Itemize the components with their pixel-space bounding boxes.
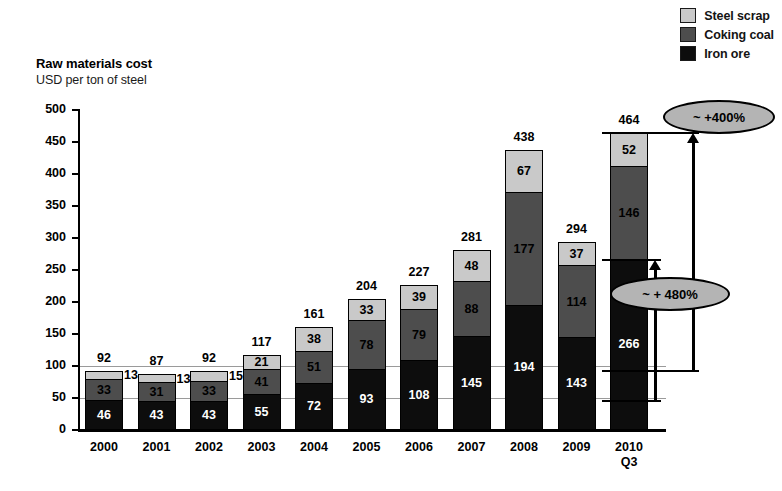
bar-total-label: 92 <box>85 351 123 365</box>
bar-segment-coking-coal[interactable]: 114 <box>559 266 595 338</box>
bar-segment-value: 146 <box>619 207 640 220</box>
x-axis-label: 2006 <box>392 440 446 455</box>
bar-segment-value: 43 <box>150 409 164 422</box>
stacked-bar[interactable]: 337893 <box>348 299 386 430</box>
bar-segment-coking-coal[interactable]: 51 <box>296 352 332 384</box>
y-axis-tick-label: 50 <box>52 390 66 404</box>
bar-segment-iron-ore[interactable]: 43 <box>191 402 227 429</box>
bar-segment-steel-scrap[interactable]: 38 <box>296 328 332 352</box>
bar-segment-value: 41 <box>255 376 269 389</box>
bar-segment-coking-coal[interactable]: 78 <box>349 321 385 370</box>
bar-segment-coking-coal[interactable]: 177 <box>506 193 542 305</box>
stacked-bar[interactable]: 133143 <box>138 374 176 430</box>
bar-group[interactable]: 117214155 <box>243 335 281 430</box>
bar-segment-iron-ore[interactable]: 55 <box>244 395 280 429</box>
bar-segment-value: 48 <box>465 260 479 273</box>
bar-segment-iron-ore[interactable]: 93 <box>349 370 385 429</box>
legend-label-coking-coal: Coking coal <box>704 28 774 42</box>
x-axis-label: 2008 <box>497 440 551 455</box>
bar-segment-value: 145 <box>461 377 482 390</box>
x-axis-label: 2002 <box>182 440 236 455</box>
bar-segment-iron-ore[interactable]: 72 <box>296 384 332 429</box>
bar-group[interactable]: 92133346 <box>85 351 123 430</box>
bar-segment-value: 13 <box>124 369 138 382</box>
legend-label-iron-ore: Iron ore <box>704 47 750 61</box>
x-axis-label-quarter: Q3 <box>602 455 656 470</box>
bar-segment-steel-scrap[interactable]: 67 <box>506 151 542 194</box>
annotation-400-shaft <box>692 141 695 371</box>
bar-segment-value: 21 <box>255 356 269 369</box>
bar-group[interactable]: 46452146266 <box>610 113 648 430</box>
bar-segment-steel-scrap[interactable]: 21 <box>244 356 280 369</box>
bar-segment-steel-scrap[interactable]: 48 <box>454 251 490 281</box>
stacked-bar[interactable]: 3979108 <box>400 285 438 430</box>
stacked-bar[interactable]: 385172 <box>295 327 333 430</box>
annotation-480-baseline <box>602 400 661 402</box>
bar-segment-coking-coal[interactable]: 33 <box>86 380 122 400</box>
x-axis-label: 2001 <box>130 440 184 455</box>
stacked-bar[interactable]: 4888145 <box>453 250 491 430</box>
x-axis-label: 2010Q3 <box>602 440 656 470</box>
x-axis-label-year: 2000 <box>77 440 131 455</box>
stacked-bar[interactable]: 133346 <box>85 371 123 430</box>
bar-segment-steel-scrap[interactable]: 13 <box>86 372 122 380</box>
bar-group[interactable]: 161385172 <box>295 307 333 430</box>
bar-segment-coking-coal[interactable]: 88 <box>454 282 490 338</box>
x-axis-label-year: 2005 <box>340 440 394 455</box>
bar-segment-coking-coal[interactable]: 33 <box>191 382 227 403</box>
bar-group[interactable]: 87133143 <box>138 354 176 430</box>
bar-segment-iron-ore[interactable]: 145 <box>454 337 490 429</box>
bar-segment-steel-scrap[interactable]: 13 <box>139 375 175 383</box>
annotation-400-baseline <box>602 370 699 372</box>
x-axis-label-year: 2008 <box>497 440 551 455</box>
y-axis-tick-label: 150 <box>45 326 66 340</box>
bar-segment-steel-scrap[interactable]: 39 <box>401 286 437 311</box>
bar-group[interactable]: 43867177194 <box>505 130 543 430</box>
bar-segment-steel-scrap[interactable]: 37 <box>559 243 595 266</box>
bar-segment-steel-scrap[interactable]: 52 <box>611 134 647 167</box>
bar-group[interactable]: 2814888145 <box>453 230 491 430</box>
x-axis-label: 2005 <box>340 440 394 455</box>
x-axis-label-year: 2004 <box>287 440 341 455</box>
bar-segment-coking-coal[interactable]: 79 <box>401 310 437 360</box>
legend-label-steel-scrap: Steel scrap <box>704 9 770 23</box>
bar-segment-value: 266 <box>619 338 640 351</box>
stacked-bar[interactable]: 153343 <box>190 371 228 430</box>
bar-group[interactable]: 204337893 <box>348 279 386 430</box>
bar-segment-iron-ore[interactable]: 46 <box>86 401 122 429</box>
y-axis-tick <box>72 333 80 335</box>
bar-segment-steel-scrap[interactable]: 15 <box>191 372 227 381</box>
bar-segment-value: 33 <box>97 384 111 397</box>
annotation-400-arrowhead <box>687 133 699 143</box>
bar-segment-value: 72 <box>307 400 321 413</box>
bar-segment-value: 78 <box>360 339 374 352</box>
bar-total-label: 227 <box>400 265 438 279</box>
bar-segment-value: 43 <box>202 409 216 422</box>
bar-segment-coking-coal[interactable]: 31 <box>139 383 175 402</box>
bar-segment-iron-ore[interactable]: 194 <box>506 306 542 429</box>
bar-group[interactable]: 2273979108 <box>400 265 438 430</box>
bar-segment-iron-ore[interactable]: 43 <box>139 402 175 429</box>
bar-total-label: 294 <box>558 222 596 236</box>
callout-iron-ore-growth: ~ + 480% <box>610 277 730 311</box>
bar-segment-value: 177 <box>514 243 535 256</box>
bar-segment-value: 33 <box>202 385 216 398</box>
y-axis-tick-label: 100 <box>45 358 66 372</box>
bar-segment-iron-ore[interactable]: 143 <box>559 338 595 429</box>
bar-segment-value: 194 <box>514 361 535 374</box>
stacked-bar[interactable]: 214155 <box>243 355 281 430</box>
stacked-bar[interactable]: 67177194 <box>505 150 543 430</box>
bar-segment-coking-coal[interactable]: 146 <box>611 167 647 260</box>
bar-group[interactable]: 29437114143 <box>558 222 596 430</box>
bar-total-label: 117 <box>243 335 281 349</box>
stacked-bar[interactable]: 37114143 <box>558 242 596 430</box>
bar-segment-value: 108 <box>409 389 430 402</box>
bar-group[interactable]: 92153343 <box>190 351 228 430</box>
bar-segment-coking-coal[interactable]: 41 <box>244 370 280 395</box>
bar-total-label: 438 <box>505 130 543 144</box>
bar-segment-steel-scrap[interactable]: 33 <box>349 300 385 321</box>
x-axis-label: 2004 <box>287 440 341 455</box>
bar-segment-iron-ore[interactable]: 108 <box>401 361 437 429</box>
bar-segment-value: 33 <box>360 304 374 317</box>
y-axis-tick <box>72 141 80 143</box>
